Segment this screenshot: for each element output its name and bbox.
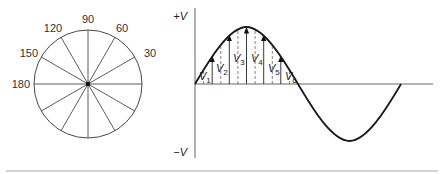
label-v3: V3	[233, 52, 245, 67]
phasor-circle: 90 60 30 120 150 180	[12, 13, 157, 138]
instantaneous-value-labels: V1 V2 V3 V4 V5 V6	[199, 52, 297, 85]
angle-label-150: 150	[20, 47, 38, 59]
label-v4: V4	[251, 52, 263, 67]
center-dot	[86, 82, 90, 86]
label-v1: V1	[199, 70, 211, 85]
arrow-90deg	[244, 27, 249, 84]
angle-label-60: 60	[116, 22, 128, 34]
instantaneous-arrows	[210, 27, 284, 84]
angle-label-180: 180	[12, 78, 30, 90]
negative-voltage-label: −V	[173, 146, 188, 158]
phasor-sine-diagram: 90 60 30 120 150 180 +V −V	[0, 0, 441, 174]
positive-voltage-label: +V	[173, 10, 188, 22]
label-v2: V2	[216, 62, 228, 77]
angle-label-90: 90	[82, 13, 94, 25]
label-v5: V5	[268, 62, 280, 77]
label-v6: V6	[285, 70, 297, 85]
angle-label-30: 30	[144, 47, 156, 59]
angle-label-120: 120	[44, 22, 62, 34]
